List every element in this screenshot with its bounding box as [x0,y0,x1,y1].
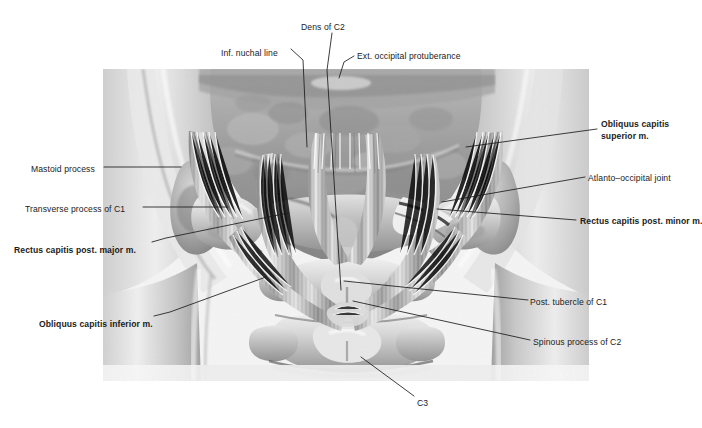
label-dens-of-c2: Dens of C2 [301,22,345,32]
label-obliquus-capitis-superior: Obliquus capitis [601,119,669,129]
label-c3: C3 [417,398,428,408]
label-post-tubercle-of-c1: Post. tubercle of C1 [530,297,607,307]
label-spinous-process-of-c2: Spinous process of C2 [533,337,621,347]
suboccipital-illustration [103,69,589,381]
label-rectus-capitis-post-minor: Rectus capitis post. minor m. [580,216,702,226]
label-transverse-process-of-c1: Transverse process of C1 [25,204,125,214]
label-ext-occipital-protuberance: Ext. occipital protuberance [357,51,461,61]
illustration-plate [103,69,589,381]
label-inf-nuchal-line: Inf. nuchal line [221,48,278,58]
label-rectus-capitis-post-major: Rectus capitis post. major m. [14,245,136,255]
label-obliquus-capitis-superior2: superior m. [601,131,649,141]
label-mastoid-process: Mastoid process [31,164,95,174]
label-atlanto-occipital-joint: Atlanto–occipital joint [588,173,671,183]
label-obliquus-capitis-inferior: Obliquus capitis inferior m. [39,319,153,329]
